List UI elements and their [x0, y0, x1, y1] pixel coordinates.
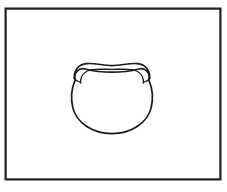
drawing-canvas: [0, 0, 227, 192]
figure-artboard: [0, 0, 227, 192]
frame-border: [6, 9, 221, 180]
